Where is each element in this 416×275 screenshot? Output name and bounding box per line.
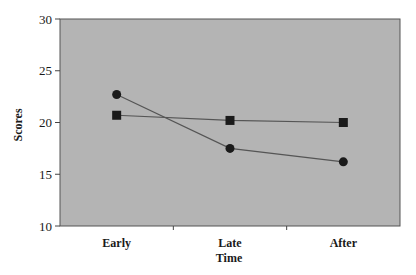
y-tick-label: 10 xyxy=(39,219,52,234)
line-chart: 1015202530 EarlyLateAfter Scores Time xyxy=(0,0,416,275)
square-marker xyxy=(339,118,348,127)
y-tick-label: 15 xyxy=(39,167,52,182)
square-marker xyxy=(112,111,121,120)
y-axis-title: Scores xyxy=(11,108,25,141)
circle-marker xyxy=(112,90,121,99)
y-tick-label: 25 xyxy=(39,63,52,78)
y-tick-label: 30 xyxy=(39,12,52,27)
circle-marker xyxy=(339,157,348,166)
y-tick-label: 20 xyxy=(39,115,52,130)
x-axis-title: Time xyxy=(216,251,243,265)
circle-marker xyxy=(226,144,235,153)
y-axis: 1015202530 xyxy=(39,12,60,234)
square-marker xyxy=(226,116,235,125)
x-axis: EarlyLateAfter xyxy=(102,226,357,250)
x-category-label: Late xyxy=(218,236,242,250)
x-category-label: After xyxy=(330,236,358,250)
x-category-label: Early xyxy=(102,236,131,250)
